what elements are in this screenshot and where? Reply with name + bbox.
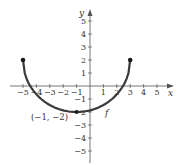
y-tick-label: 1: [81, 69, 86, 78]
y-tick-label: −3: [74, 121, 86, 130]
y-tick-label: 2: [81, 56, 86, 65]
y-tick-label: 4: [81, 30, 86, 39]
vertex-annotation: (−1, −2): [31, 112, 68, 122]
y-tick-label: 3: [81, 43, 86, 52]
y-tick-label: −4: [74, 134, 86, 143]
x-axis-label: x: [168, 88, 173, 98]
y-tick-label: −5: [74, 147, 86, 156]
y-axis-arrow-icon: [88, 9, 93, 16]
x-tick-label: 5: [154, 88, 159, 97]
function-label: f: [104, 108, 110, 118]
y-tick-label: 5: [81, 17, 86, 26]
x-tick-label: 3: [128, 88, 133, 97]
x-tick-label: −5: [17, 88, 29, 97]
y-tick-label: −1: [74, 95, 86, 104]
graph-canvas: −5−4−3−2−112345 −5−4−3−2−112345 x y (−1,…: [0, 0, 178, 165]
x-tick-label: −2: [57, 88, 69, 97]
x-tick-label: −3: [44, 88, 56, 97]
vertex-point: [75, 110, 79, 114]
y-axis-label: y: [78, 8, 85, 18]
x-tick-label: 4: [141, 88, 146, 97]
x-tick-label: 1: [101, 88, 106, 97]
endpoint-left: [21, 58, 26, 63]
endpoint-right: [128, 58, 133, 63]
